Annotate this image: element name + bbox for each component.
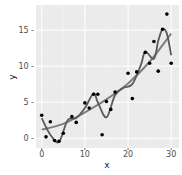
y-tick-label: 0 -: [23, 134, 34, 143]
data-point: [83, 101, 87, 105]
y-tick-label: 10 -: [18, 62, 34, 71]
data-point: [44, 135, 48, 139]
data-point: [74, 121, 78, 125]
data-point: [70, 115, 74, 119]
scatter-chart: 0102030 0 -5 -10 -15 - x y: [0, 0, 182, 175]
data-point: [109, 108, 113, 112]
data-point: [57, 139, 61, 143]
data-point: [131, 97, 135, 101]
data-point: [100, 133, 104, 137]
data-point: [40, 113, 44, 117]
data-point: [152, 40, 156, 44]
x-axis-ticks: 0102030: [39, 148, 176, 159]
data-point: [87, 106, 91, 110]
data-point: [135, 70, 139, 74]
data-point: [49, 120, 53, 124]
x-tick-label: 20: [123, 150, 133, 159]
y-axis-ticks: 0 -5 -10 -15 -: [18, 26, 34, 143]
data-point: [105, 100, 109, 104]
data-point: [113, 90, 117, 94]
data-point: [96, 92, 100, 96]
data-point: [165, 12, 169, 16]
data-point: [148, 61, 152, 65]
x-tick-label: 0: [39, 150, 44, 159]
data-point: [156, 69, 160, 73]
y-tick-label: 15 -: [18, 26, 34, 35]
y-tick-label: 5 -: [23, 98, 34, 107]
x-tick-label: 30: [166, 150, 176, 159]
data-point: [53, 139, 57, 143]
y-axis-title: y: [7, 74, 17, 80]
data-point: [92, 92, 96, 96]
data-point: [61, 131, 65, 135]
x-tick-label: 10: [80, 150, 90, 159]
data-point: [169, 61, 173, 65]
data-point: [144, 51, 148, 55]
x-axis-title: x: [104, 160, 110, 170]
data-point: [161, 27, 165, 31]
data-point: [126, 72, 130, 76]
